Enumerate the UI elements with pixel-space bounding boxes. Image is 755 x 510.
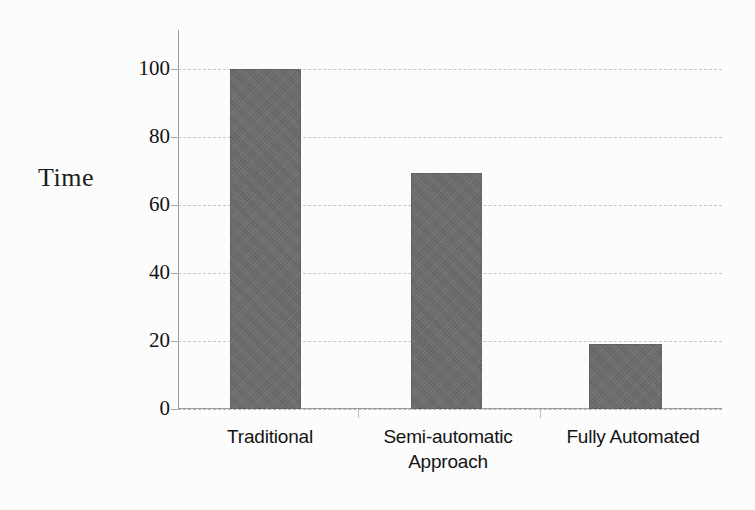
x-tick-label-fully-automated-line1: Fully Automated	[544, 424, 722, 449]
x-tick-label-traditional-line1: Traditional	[186, 424, 354, 449]
y-tick-mark-60	[171, 205, 178, 206]
bar-fully-automated[interactable]	[589, 344, 662, 409]
x-tick-label-semi-automatic-line2: Approach	[360, 449, 536, 474]
y-tick-mark-80	[171, 137, 178, 138]
x-tick-label-traditional: Traditional	[186, 424, 354, 449]
bar-semi-automatic[interactable]	[411, 173, 482, 409]
y-axis-tick-labels: 100 80 60 40 20 0	[108, 30, 170, 409]
x-tick-label-fully-automated: Fully Automated	[544, 424, 722, 449]
x-tick-label-semi-automatic: Semi-automatic Approach	[360, 424, 536, 474]
category-separator-1	[358, 409, 359, 418]
y-tick-mark-40	[171, 273, 178, 274]
plot-area	[178, 30, 722, 409]
chart-page: Time 100 80 60 40 20 0 Traditional Semi-…	[0, 0, 755, 510]
bar-traditional[interactable]	[230, 69, 301, 409]
y-tick-label-0: 0	[114, 396, 170, 421]
category-separator-2	[540, 409, 541, 418]
y-tick-label-60: 60	[114, 192, 170, 217]
y-tick-label-40: 40	[114, 260, 170, 285]
y-tick-label-100: 100	[114, 56, 170, 81]
y-tick-mark-20	[171, 341, 178, 342]
y-tick-mark-100	[171, 69, 178, 70]
y-tick-label-80: 80	[114, 124, 170, 149]
y-axis-line	[178, 30, 179, 409]
y-tick-mark-0	[171, 409, 178, 410]
gridline-0	[178, 409, 722, 410]
x-axis-tick-labels: Traditional Semi-automatic Approach Full…	[178, 424, 722, 494]
y-tick-label-20: 20	[114, 328, 170, 353]
x-tick-label-semi-automatic-line1: Semi-automatic	[360, 424, 536, 449]
